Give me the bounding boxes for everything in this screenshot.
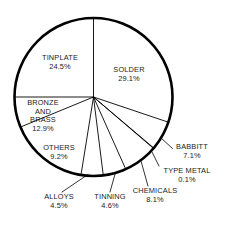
leader-type-metal — [152, 152, 159, 166]
slice-label-babbitt-value: 7.1% — [168, 152, 216, 161]
leader-chemicals — [141, 161, 148, 186]
slice-label-alloys-value: 4.5% — [37, 202, 81, 211]
slice-label-bronze: BRONZE AND BRASS 12.9% — [17, 99, 69, 133]
leader-alloys — [62, 175, 88, 193]
slice-label-others-value: 9.2% — [36, 153, 82, 162]
slice-label-tinning: TINNING 4.6% — [88, 193, 132, 210]
slice-label-babbitt: BABBITT 7.1% — [168, 143, 216, 160]
slice-label-type-metal: TYPE METAL 0.1% — [156, 167, 218, 184]
slice-label-chemicals-value: 8.1% — [127, 196, 183, 205]
slice-label-tinplate-value: 24.5% — [23, 63, 97, 72]
slice-label-solder-value: 29.1% — [98, 75, 160, 84]
slice-label-alloys: ALLOYS 4.5% — [37, 193, 81, 210]
pie-chart-figure: TINPLATE 24.5% SOLDER 29.1% BRONZE AND B… — [0, 0, 233, 239]
slice-label-others: OTHERS 9.2% — [36, 144, 82, 161]
slice-label-solder: SOLDER 29.1% — [98, 66, 160, 83]
slice-label-type-metal-value: 0.1% — [156, 176, 218, 185]
slice-label-tinplate: TINPLATE 24.5% — [23, 54, 97, 71]
slice-label-tinning-value: 4.6% — [88, 202, 132, 211]
slice-label-bronze-value: 12.9% — [17, 125, 69, 134]
leader-tinning — [110, 173, 116, 193]
slice-label-chemicals: CHEMICALS 8.1% — [127, 187, 183, 204]
